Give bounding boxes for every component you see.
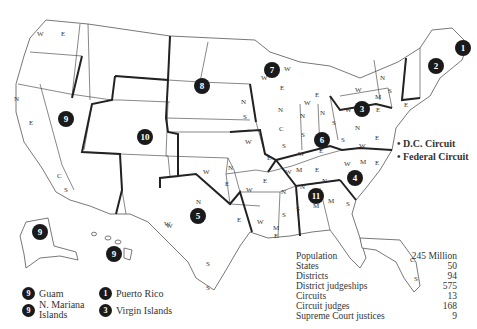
district-label: N (241, 98, 246, 106)
district-label: N (281, 188, 286, 196)
district-label: E (225, 180, 229, 188)
district-label: C (279, 125, 284, 133)
district-label: M (375, 93, 382, 101)
district-label: S (301, 131, 305, 139)
circuit-badge-6: 6 (314, 132, 330, 148)
district-label: N (14, 95, 19, 103)
district-label: E (280, 84, 284, 92)
district-label: M (360, 158, 367, 166)
federal-circuit-label: • Federal Circuit (397, 150, 469, 163)
district-label: N (320, 109, 325, 117)
district-label: E (404, 101, 408, 109)
district-label: E (375, 134, 379, 142)
statistics-table: Population245 Million States50 Districts… (296, 251, 457, 321)
district-label: S (341, 136, 345, 144)
legend-item-virgin-islands: 3Virgin Islands (99, 303, 172, 317)
legend-territories-1-3: 1Puerto Rico 3Virgin Islands (99, 286, 172, 317)
district-label: N (228, 164, 233, 172)
legend-territories-9: 9Guam 9N. Mariana Islands (22, 286, 99, 322)
district-label: S (64, 186, 68, 194)
district-label: W (285, 168, 292, 176)
district-label: E (237, 216, 241, 224)
legend-item-guam: 9Guam (22, 286, 99, 300)
legend-item-puerto-rico: 1Puerto Rico (99, 286, 172, 300)
circuit-badge-9: 9 (32, 224, 48, 240)
circuit-badge-8: 8 (194, 78, 210, 94)
district-label: W (257, 218, 264, 226)
circuit-badge-icon: 9 (22, 287, 35, 300)
district-label: E (315, 166, 319, 174)
stat-row: Supreme Court justices9 (296, 311, 457, 321)
district-label: W (344, 160, 351, 168)
district-label: W (246, 186, 253, 194)
circuit-badge-2: 2 (428, 58, 444, 74)
stat-row: Circuit judges168 (296, 301, 457, 311)
district-label: S (282, 142, 286, 150)
district-label: E (29, 119, 33, 127)
district-label: E (376, 106, 380, 114)
district-label: E (61, 30, 65, 38)
district-label: N (380, 74, 385, 82)
district-label: E (274, 232, 278, 240)
district-label: E (263, 177, 267, 185)
circuit-badge-3: 3 (354, 101, 370, 117)
district-label: S (243, 113, 247, 121)
stat-row: District judgeships575 (296, 281, 457, 291)
district-label: E (315, 91, 319, 99)
district-label: W (298, 150, 305, 158)
district-label: N (300, 112, 305, 120)
alaska (20, 218, 78, 268)
dc-circuit-label: • D.C. Circuit (397, 137, 469, 150)
circuit-badge-9: 9 (106, 246, 122, 262)
district-label: E (267, 154, 271, 162)
district-label: M (328, 197, 335, 205)
stat-row: Districts94 (296, 271, 457, 281)
district-label: W (355, 86, 362, 94)
district-label: M (296, 166, 303, 174)
district-label: S (332, 119, 336, 127)
circuit-badge-7: 7 (264, 62, 280, 78)
district-label: W (359, 142, 366, 150)
district-label: W (166, 222, 173, 230)
circuit-badge-icon: 3 (99, 304, 112, 317)
stat-row: Circuits13 (296, 291, 457, 301)
district-label: N (322, 177, 327, 185)
district-label: S (388, 87, 392, 95)
legend-item-n-mariana: 9N. Mariana Islands (22, 300, 99, 322)
district-label: S (346, 200, 350, 208)
district-label: W (203, 168, 210, 176)
district-label: W (37, 30, 44, 38)
circuit-badge-1: 1 (455, 40, 471, 56)
dc-federal-annotation: • D.C. Circuit • Federal Circuit (397, 137, 469, 163)
stat-row: Population245 Million (296, 251, 457, 261)
circuit-badge-5: 5 (190, 208, 206, 224)
district-label: S (282, 211, 286, 219)
district-label: W (245, 138, 252, 146)
district-label: S (206, 284, 210, 292)
district-label: N (278, 106, 283, 114)
circuit-badge-9: 9 (58, 111, 74, 127)
district-label: N (196, 198, 201, 206)
stat-row: States50 (296, 261, 457, 271)
circuit-badge-11: 11 (308, 188, 324, 204)
circuit-badge-icon: 9 (22, 304, 35, 317)
district-label: C (57, 172, 62, 180)
district-label: E (319, 147, 323, 155)
district-label: N (355, 124, 360, 132)
district-label: S (296, 205, 300, 213)
district-label: S (206, 260, 210, 268)
district-label: M (273, 224, 280, 232)
circuit-badge-4: 4 (347, 170, 363, 186)
district-label: E (375, 159, 379, 167)
district-label: N (300, 183, 305, 191)
district-label: W (345, 106, 352, 114)
district-label: W (284, 65, 291, 73)
circuit-badge-10: 10 (137, 129, 153, 145)
circuit-badge-icon: 1 (99, 287, 112, 300)
district-label: W (304, 99, 311, 107)
